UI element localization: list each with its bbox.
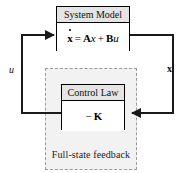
system-model-title: System Model: [57, 7, 129, 23]
minus-sign: −: [84, 110, 94, 122]
gain-k-symbol: K: [94, 110, 103, 122]
signal-label-x: x: [167, 63, 172, 74]
block-diagram-canvas: Full-state feedback System Model x = Ax …: [0, 0, 191, 173]
input-u-symbol: u: [113, 32, 119, 44]
state-feedback-path: [130, 35, 173, 113]
signal-label-u: u: [9, 64, 14, 75]
system-model-block: System Model x = Ax + Bu: [56, 6, 130, 51]
control-law-expression: − K: [62, 101, 124, 131]
matrix-a-symbol: A: [83, 32, 91, 44]
x-dot-symbol: x: [67, 32, 73, 44]
equals-sign: =: [73, 32, 83, 44]
control-law-block: Control Law − K: [61, 84, 125, 130]
system-model-equation: x = Ax + Bu: [57, 23, 129, 52]
plus-sign: +: [96, 32, 106, 44]
matrix-b-symbol: B: [106, 32, 113, 44]
control-law-title: Control Law: [62, 85, 124, 101]
